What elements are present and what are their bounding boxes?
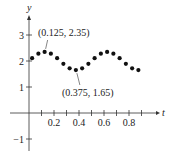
data-point: [111, 52, 115, 56]
x-axis-arrow-icon: [156, 111, 160, 115]
y-tick-label: 1: [19, 82, 24, 93]
data-point: [30, 56, 34, 60]
y-axis-arrow-icon: [27, 15, 31, 20]
data-point: [68, 66, 72, 70]
annotation-leader: [77, 73, 80, 85]
data-point: [124, 62, 128, 66]
data-point: [93, 56, 97, 60]
annotation-leader: [46, 40, 48, 49]
data-point: [99, 52, 103, 56]
axes: ty: [10, 2, 165, 151]
data-point: [130, 66, 134, 70]
data-point: [80, 66, 84, 70]
x-tick-label: 0.2: [48, 117, 61, 128]
data-point: [74, 68, 78, 72]
annotations: (0.125, 2.35)(0.375, 1.65): [38, 27, 114, 99]
data-point: [136, 68, 140, 72]
x-tick-label: 0.8: [123, 117, 136, 128]
data-point: [49, 52, 53, 56]
annotation-peak: (0.125, 2.35): [38, 27, 90, 39]
x-tick-label: 0.4: [73, 117, 86, 128]
data-point: [118, 56, 122, 60]
data-point: [36, 52, 40, 56]
y-axis-label: y: [26, 2, 32, 13]
data-points: [30, 50, 140, 72]
data-point: [55, 56, 59, 60]
x-axis-label: t: [162, 107, 165, 118]
x-tick-label: 0.6: [98, 117, 111, 128]
annotation-trough: (0.375, 1.65): [62, 87, 114, 99]
data-point: [105, 50, 109, 54]
y-tick-label: −1: [13, 134, 24, 145]
data-point: [43, 50, 47, 54]
chart: ty 0.20.40.60.8−1123 (0.125, 2.35)(0.375…: [0, 0, 175, 155]
y-tick-label: 2: [19, 56, 24, 67]
y-tick-label: 3: [19, 30, 24, 41]
data-point: [86, 62, 90, 66]
data-point: [61, 62, 65, 66]
